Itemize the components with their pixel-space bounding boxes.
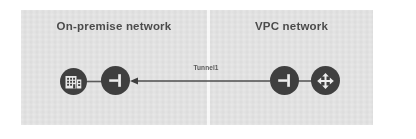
node-onprem-vpn-gateway[interactable]: [101, 66, 130, 95]
node-cloud-router[interactable]: [311, 66, 340, 95]
vpn-gateway-icon: [275, 72, 294, 89]
node-datacenter[interactable]: [60, 68, 87, 95]
tunnel-label: Tunnel1: [170, 64, 242, 71]
building-icon: [64, 73, 83, 90]
node-vpc-vpn-gateway[interactable]: [270, 66, 299, 95]
network-diagram-canvas: On-premise network VPC network Tunnel1: [0, 0, 416, 139]
vpn-gateway-icon: [106, 72, 125, 89]
router-icon: [316, 72, 335, 90]
tunnel-arrowhead: [130, 77, 138, 84]
